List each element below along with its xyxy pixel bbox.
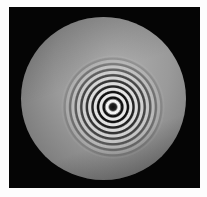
black-frame [9,7,200,188]
illuminated-aperture-disc [21,17,186,180]
central-fringe-spot [105,99,121,115]
